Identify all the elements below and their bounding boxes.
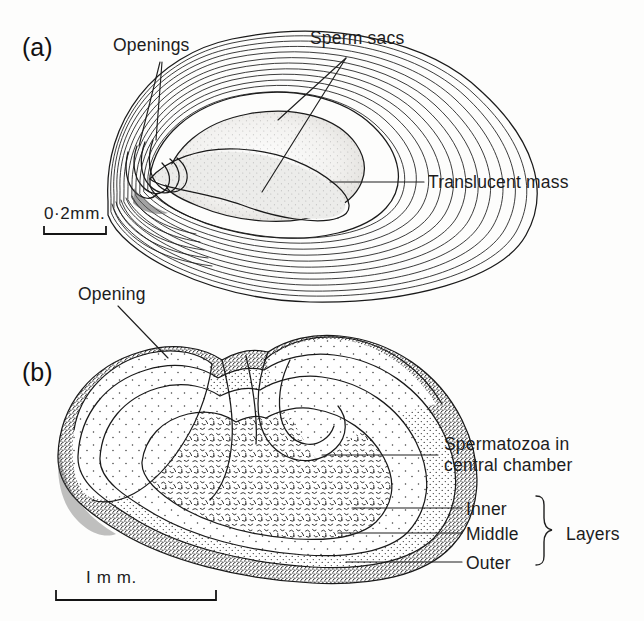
label-opening: Opening: [78, 284, 146, 304]
scale-label-b: I m m.: [86, 568, 137, 587]
label-translucent-mass: Translucent mass: [428, 172, 569, 192]
label-openings: Openings: [113, 35, 190, 55]
scale-label-a: 0·2mm.: [44, 204, 105, 223]
figure-root: (a) Openings Sperm sacs Translucent mass…: [0, 0, 644, 621]
label-middle: Middle: [466, 524, 519, 544]
label-spermatozoa-line2: central chamber: [444, 455, 572, 475]
panel-b-label: (b): [22, 358, 53, 386]
panel-a-label: (a): [22, 33, 53, 61]
scientific-illustration: (a) Openings Sperm sacs Translucent mass…: [0, 0, 644, 621]
label-spermatozoa-line1: Spermatozoa in: [444, 434, 569, 454]
label-layers: Layers: [566, 524, 620, 544]
label-outer: Outer: [466, 553, 511, 573]
label-sperm-sacs: Sperm sacs: [310, 28, 404, 48]
label-inner: Inner: [466, 499, 507, 519]
